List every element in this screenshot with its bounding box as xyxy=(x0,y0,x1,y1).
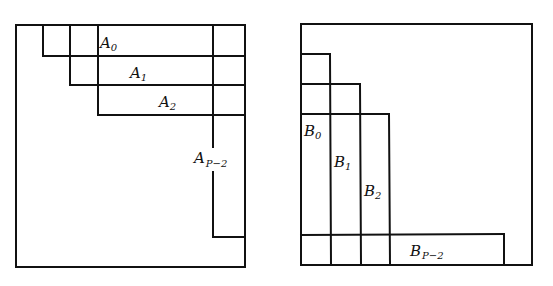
label-a0: A0 xyxy=(98,34,118,53)
label-b0: B0 xyxy=(303,122,322,141)
right-outer-border xyxy=(301,24,532,265)
col-line-b2 xyxy=(389,114,390,265)
label-bp2: BP−2 xyxy=(409,242,444,261)
left-outer-border xyxy=(16,25,245,267)
row-line-bp2 xyxy=(301,234,504,235)
label-b1: B1 xyxy=(333,153,351,172)
label-b2: B2 xyxy=(363,182,381,201)
col-line-b1 xyxy=(360,84,361,265)
label-a1: A1 xyxy=(128,64,147,83)
col-line-b0 xyxy=(330,54,331,265)
right-matrix: B0 B1 B2 BP−2 xyxy=(301,24,532,265)
diagram-canvas: A0 A1 A2 AP−2 B0 B1 B2 BP−2 xyxy=(0,0,553,286)
left-matrix: A0 A1 A2 AP−2 xyxy=(16,25,245,267)
label-ap2: AP−2 xyxy=(192,149,227,169)
label-a2: A2 xyxy=(157,93,176,112)
